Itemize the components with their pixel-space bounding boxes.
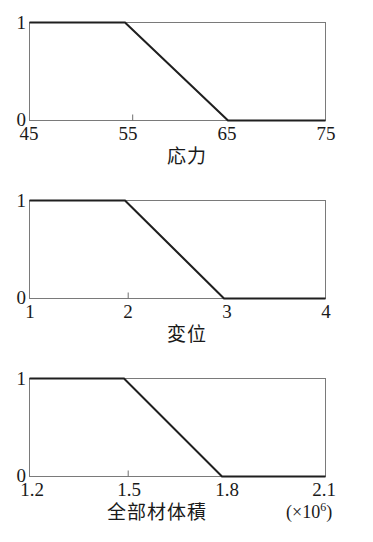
membership-curve (30, 23, 326, 121)
axis-scale-multiplier: (×106) (286, 502, 332, 523)
xtick-label-45: 45 (20, 124, 39, 144)
scale-note-suffix: ) (326, 502, 332, 522)
chart-panel-stress: 1 0 45 55 65 75 応力 (0, 0, 373, 178)
plot-area-stress (0, 0, 373, 130)
xtick-label-55: 55 (119, 124, 138, 144)
xtick-labels: 45 55 65 75 (0, 124, 373, 146)
xtick-label-2-1: 2.1 (312, 480, 336, 500)
xtick-label-1-5: 1.5 (117, 480, 141, 500)
xtick-label-4: 4 (321, 302, 331, 322)
membership-curve (30, 379, 326, 477)
plot-frame (30, 201, 326, 299)
xtick-labels: 1.2 1.5 1.8 2.1 (0, 480, 373, 502)
scale-note-prefix: (×10 (286, 502, 320, 522)
xtick-label-75: 75 (317, 124, 336, 144)
ytick-label-1: 1 (4, 191, 26, 210)
membership-curve (30, 201, 326, 299)
xtick-label-3: 3 (222, 302, 232, 322)
xtick-label-1-2: 1.2 (20, 480, 44, 500)
chart-panel-total-volume: 1 0 1.2 1.5 1.8 2.1 全部材体積 (×106) (0, 356, 373, 542)
xtick-label-1: 1 (25, 302, 35, 322)
ytick-label-1: 1 (4, 369, 26, 388)
x-axis-label-total-volume: 全部材体積 (12, 502, 302, 523)
xtick-label-1-8: 1.8 (215, 480, 239, 500)
chart-panel-displacement: 1 0 1 2 3 4 変位 (0, 178, 373, 356)
plot-frame (30, 379, 326, 477)
plot-area-displacement (0, 178, 373, 308)
fuzzy-membership-figure: 1 0 45 55 65 75 応力 1 0 1 2 3 4 変位 (0, 0, 373, 542)
ytick-label-1: 1 (4, 13, 26, 32)
xtick-label-65: 65 (218, 124, 237, 144)
x-axis-label-displacement: 変位 (0, 324, 373, 345)
xtick-label-2: 2 (123, 302, 133, 322)
x-axis-label-stress: 応力 (0, 146, 373, 167)
xtick-labels: 1 2 3 4 (0, 302, 373, 324)
plot-area-total-volume (0, 356, 373, 486)
